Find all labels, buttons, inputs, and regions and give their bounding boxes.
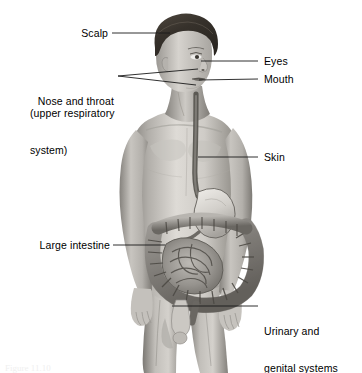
- label-eyes: Eyes: [264, 55, 288, 67]
- esophagus: [195, 94, 198, 196]
- label-skin: Skin: [264, 151, 285, 163]
- label-nose-throat-line3: system): [30, 144, 160, 156]
- label-scalp: Scalp: [0, 27, 108, 39]
- label-urinary-genital: Urinary and genital systems (lower ureth…: [264, 300, 362, 373]
- label-urinary-line2: genital systems: [264, 362, 362, 373]
- leader-mouth: [199, 79, 258, 80]
- label-mouth: Mouth: [264, 73, 294, 85]
- figure-caption-partial: Figure 11.10: [5, 363, 51, 373]
- label-large-intestine: Large intestine: [0, 239, 110, 251]
- anatomy-figure: Scalp Nose and throat (upper respiratory…: [0, 0, 362, 373]
- label-urinary-line1: Urinary and: [264, 325, 362, 337]
- label-nose-throat-line2: (upper respiratory: [30, 107, 160, 119]
